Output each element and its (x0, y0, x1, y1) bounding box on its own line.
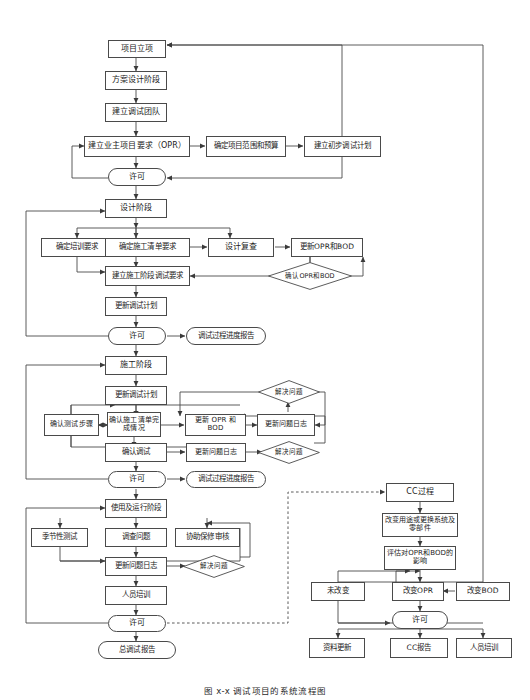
connector-layer (0, 0, 530, 700)
node-approval-1[interactable]: 许可 (108, 168, 166, 186)
figure-caption: 图 x-x 调试项目的系统流程图 (0, 684, 530, 696)
node-design-stage[interactable]: 设计阶段 (105, 199, 167, 218)
node-cx-progress-report-1[interactable]: 调试过程进度报告 (186, 327, 266, 345)
node-approval-2[interactable]: 许可 (108, 327, 166, 345)
node-scheme-design-stage[interactable]: 方案设计阶段 (105, 71, 167, 90)
node-no-change[interactable]: 未改变 (311, 582, 365, 601)
node-change-use-or-replace[interactable]: 改变用途或更换系统及零部件 (382, 513, 458, 537)
node-confirm-opr-bod[interactable]: 确认OPR和BOD (268, 262, 352, 290)
node-update-issue-log-2[interactable]: 更新问题日志 (186, 443, 246, 462)
node-document-update[interactable]: 资料更新 (309, 638, 365, 658)
node-confirm-checklist-done[interactable]: 确认施工清单完成情况 (107, 412, 161, 437)
node-issue-resolved-3[interactable]: 解决问题 (183, 555, 245, 578)
node-construction-cx-req[interactable]: 建立施工阶段调试要求 (105, 266, 190, 286)
node-issue-resolved-1[interactable]: 解决问题 (258, 380, 320, 404)
node-approval-3[interactable]: 许可 (108, 471, 166, 488)
node-approval-5[interactable]: 许可 (392, 611, 448, 629)
node-update-opr-bod-1[interactable]: 更新OPR和BOD (291, 238, 363, 257)
node-cx-progress-report-2[interactable]: 调试过程进度报告 (186, 471, 266, 488)
node-update-cx-plan-2[interactable]: 更新调试计划 (105, 386, 167, 405)
node-staff-training-1[interactable]: 人员培训 (105, 586, 167, 605)
node-change-opr[interactable]: 改变OPR (392, 582, 444, 601)
node-define-checklist-req[interactable]: 确定施工清单要求 (105, 238, 190, 257)
node-approval-4[interactable]: 许可 (108, 615, 166, 632)
node-update-cx-plan-1[interactable]: 更新调试计划 (105, 297, 167, 316)
node-change-bod[interactable]: 改变BOD (456, 582, 510, 601)
node-label: 解决问题 (200, 563, 228, 570)
node-label: 解决问题 (275, 449, 303, 456)
node-operation-stage[interactable]: 使用及运行阶段 (105, 499, 167, 518)
node-update-issue-log-3[interactable]: 更新问题日志 (105, 557, 167, 576)
node-define-training-req[interactable]: 确定培训要求 (41, 238, 113, 257)
node-establish-opr[interactable]: 建立业主项目要求（OPR） (84, 136, 190, 157)
node-design-review[interactable]: 设计复查 (208, 238, 274, 257)
node-confirm-cx[interactable]: 确认调试 (105, 443, 167, 462)
node-establish-cx-team[interactable]: 建立调试团队 (105, 103, 167, 122)
node-cc-process[interactable]: CC过程 (386, 483, 454, 502)
node-update-issue-log-1[interactable]: 更新问题日志 (257, 414, 315, 436)
node-label: 解决问题 (275, 389, 303, 396)
node-issue-resolved-2[interactable]: 解决问题 (258, 441, 320, 464)
node-assess-opr-bod-impact[interactable]: 评估对OPR和BOD的影响 (384, 546, 456, 570)
node-final-cx-report[interactable]: 总调试报告 (98, 641, 176, 659)
node-cc-report[interactable]: CC报告 (390, 638, 448, 658)
node-investigate-issues[interactable]: 调查问题 (105, 528, 167, 547)
node-define-scope-budget[interactable]: 确定项目范围和预算 (206, 136, 286, 157)
node-confirm-test-steps[interactable]: 确认测试步骤 (44, 414, 99, 436)
node-construction-stage[interactable]: 施工阶段 (105, 356, 167, 375)
node-project-initiation[interactable]: 项目立项 (108, 40, 166, 58)
node-staff-training-2[interactable]: 人员培训 (456, 638, 512, 658)
node-label: 确认OPR和BOD (285, 273, 334, 280)
node-assist-warranty-review[interactable]: 协助保修审核 (175, 528, 240, 547)
node-update-opr-bod-2[interactable]: 更新 OPR 和 BOD (185, 414, 246, 436)
node-initial-cx-plan[interactable]: 建立初步调试计划 (304, 136, 381, 157)
flowchart-canvas: 项目立项 方案设计阶段 建立调试团队 建立业主项目要求（OPR） 确定项目范围和… (0, 0, 530, 700)
node-seasonal-testing[interactable]: 季节性测试 (31, 528, 88, 547)
